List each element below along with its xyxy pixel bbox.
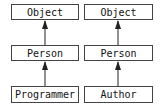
left-object-node: Object (11, 4, 79, 20)
arrow-right-author-to-person (115, 61, 121, 86)
arrow-left-person-to-object (42, 20, 48, 45)
arrow-right-person-to-object (115, 20, 121, 45)
programmer-node: Programmer (11, 86, 79, 103)
left-person-node: Person (11, 45, 79, 61)
arrow-left-programmer-to-person (42, 61, 48, 86)
right-person-node: Person (84, 45, 153, 61)
author-node: Author (84, 86, 153, 103)
right-object-node: Object (84, 4, 153, 20)
